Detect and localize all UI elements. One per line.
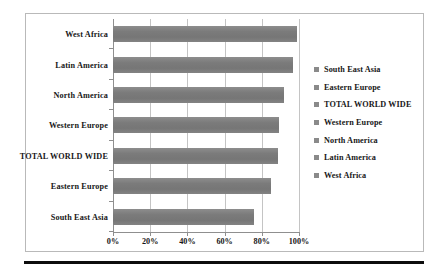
legend-swatch-icon bbox=[314, 138, 319, 143]
legend-item[interactable]: Western Europe bbox=[314, 114, 422, 132]
chart-legend: South East AsiaEastern EuropeTOTAL WORLD… bbox=[314, 61, 422, 184]
legend-label: North America bbox=[324, 136, 378, 145]
x-tick-label: 80% bbox=[254, 237, 270, 246]
legend-label: Western Europe bbox=[324, 118, 382, 127]
x-tick-label: 20% bbox=[142, 237, 158, 246]
x-tick-mark bbox=[187, 232, 188, 236]
gridline-100 bbox=[299, 19, 300, 232]
x-tick-label: 100% bbox=[289, 237, 309, 246]
legend-label: South East Asia bbox=[324, 65, 381, 74]
bar-row[interactable]: Western Europe bbox=[113, 110, 299, 140]
category-label: West Africa bbox=[65, 30, 108, 39]
bar[interactable] bbox=[113, 148, 278, 164]
figure-frame: West AfricaLatin AmericaNorth AmericaWes… bbox=[25, 13, 424, 252]
x-tick-label: 40% bbox=[179, 237, 195, 246]
legend-item[interactable]: Latin America bbox=[314, 149, 422, 167]
bar[interactable] bbox=[113, 178, 271, 194]
bottom-rule bbox=[24, 261, 424, 264]
bar[interactable] bbox=[113, 87, 284, 103]
legend-swatch-icon bbox=[314, 173, 319, 178]
category-label: Eastern Europe bbox=[51, 182, 108, 191]
bar-row[interactable]: Latin America bbox=[113, 49, 299, 79]
bar-row[interactable]: Eastern Europe bbox=[113, 171, 299, 201]
legend-item[interactable]: North America bbox=[314, 131, 422, 149]
bar-row[interactable]: South East Asia bbox=[113, 202, 299, 232]
x-tick-mark bbox=[150, 232, 151, 236]
legend-item[interactable]: Eastern Europe bbox=[314, 79, 422, 97]
category-label: Western Europe bbox=[49, 121, 108, 130]
bar[interactable] bbox=[113, 26, 297, 42]
x-tick-mark bbox=[299, 232, 300, 236]
legend-swatch-icon bbox=[314, 120, 319, 125]
x-tick-mark bbox=[113, 232, 114, 236]
legend-swatch-icon bbox=[314, 102, 319, 107]
x-tick-label: 0% bbox=[107, 237, 119, 246]
bar-row[interactable]: North America bbox=[113, 80, 299, 110]
bar[interactable] bbox=[113, 57, 293, 73]
plot-area: West AfricaLatin AmericaNorth AmericaWes… bbox=[113, 19, 299, 232]
bar[interactable] bbox=[113, 209, 254, 225]
x-tick-mark bbox=[262, 232, 263, 236]
legend-swatch-icon bbox=[314, 67, 319, 72]
legend-item[interactable]: West Africa bbox=[314, 167, 422, 185]
bar[interactable] bbox=[113, 117, 279, 133]
bar-chart: West AfricaLatin AmericaNorth AmericaWes… bbox=[26, 14, 423, 251]
legend-item[interactable]: TOTAL WORLD WIDE bbox=[314, 96, 422, 114]
legend-label: West Africa bbox=[324, 171, 366, 180]
category-label: South East Asia bbox=[51, 212, 108, 221]
legend-swatch-icon bbox=[314, 85, 319, 90]
category-label: North America bbox=[54, 91, 108, 100]
x-axis-tick-labels: 0%20%40%60%80%100% bbox=[113, 236, 299, 250]
x-tick-label: 60% bbox=[216, 237, 232, 246]
legend-label: Eastern Europe bbox=[324, 83, 381, 92]
bar-row[interactable]: TOTAL WORLD WIDE bbox=[113, 141, 299, 171]
category-label: TOTAL WORLD WIDE bbox=[20, 151, 108, 160]
category-axis-line bbox=[113, 232, 299, 233]
legend-label: TOTAL WORLD WIDE bbox=[324, 100, 411, 109]
legend-swatch-icon bbox=[314, 155, 319, 160]
bar-row[interactable]: West Africa bbox=[113, 19, 299, 49]
category-label: Latin America bbox=[55, 60, 108, 69]
legend-item[interactable]: South East Asia bbox=[314, 61, 422, 79]
x-tick-mark bbox=[225, 232, 226, 236]
legend-label: Latin America bbox=[324, 153, 376, 162]
